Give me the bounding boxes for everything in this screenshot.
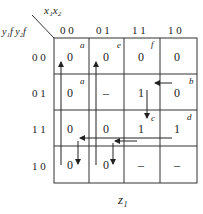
cell-r0c2: 0 <box>131 50 151 65</box>
cell-r0c1: 0 <box>96 50 116 65</box>
column-variable-label: x₁x₂ <box>44 4 61 16</box>
state-label-b: b <box>189 76 194 86</box>
row-header-11: 1 1 <box>32 123 46 135</box>
cell-r2c1: 0 <box>96 122 116 137</box>
row-header-10: 1 0 <box>32 160 46 172</box>
cell-r1c0: 0 <box>60 86 80 101</box>
cell-r2c3: 1 <box>167 122 187 137</box>
cell-r3c3: – <box>167 158 187 173</box>
cell-r2c2: 1 <box>131 122 151 137</box>
cell-r3c1: 0 <box>96 158 116 173</box>
cell-r1c2: 1 <box>131 86 151 101</box>
column-header-11: 1 1 <box>132 24 146 36</box>
state-label-d: d <box>187 112 192 122</box>
output-label: z₁ <box>118 192 128 208</box>
state-label-e: e <box>117 40 121 50</box>
row-header-00: 0 0 <box>32 51 46 63</box>
state-label-a: a <box>80 40 85 50</box>
cell-r2c0: 0 <box>60 122 80 137</box>
cell-r1c3: 0 <box>167 86 187 101</box>
row-variable-label: y₁f y₂f <box>2 26 26 37</box>
row-header-01: 0 1 <box>32 87 46 99</box>
column-header-00: 0 0 <box>60 24 74 36</box>
state-label-f: f <box>151 39 154 49</box>
cell-r0c3: 0 <box>167 50 187 65</box>
cell-r3c2: – <box>131 158 151 173</box>
cell-r0c0: 0 <box>60 50 80 65</box>
cell-r1c1: – <box>96 86 116 101</box>
column-header-10: 1 0 <box>168 24 182 36</box>
state-label-a2: a <box>80 76 85 86</box>
state-label-c: c <box>151 113 155 123</box>
cell-r3c0: 0 <box>60 158 80 173</box>
column-header-01: 0 1 <box>96 24 110 36</box>
